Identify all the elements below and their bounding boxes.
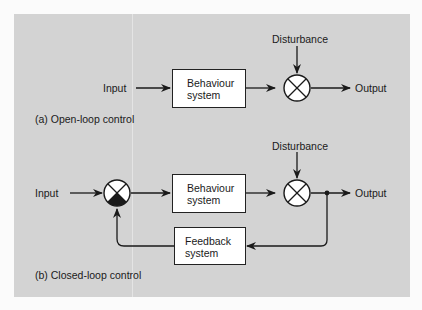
open-output-label: Output (355, 82, 387, 94)
closed-loop-caption: (b) Closed-loop control (35, 269, 141, 281)
feedback-system-box: Feedback system (174, 227, 246, 265)
open-loop-caption: (a) Open-loop control (35, 113, 134, 125)
open-behaviour-system-box: Behaviour system (172, 69, 246, 108)
open-disturbance-label: Disturbance (272, 33, 328, 45)
open-input-label: Input (103, 82, 126, 94)
closed-summing-junction (284, 180, 310, 206)
box-line1: Behaviour (187, 182, 245, 194)
closed-behaviour-system-box: Behaviour system (172, 174, 246, 213)
box-line2: system (187, 194, 245, 206)
closed-disturbance-label: Disturbance (272, 140, 328, 152)
box-line2: system (187, 89, 245, 101)
box-line2: system (185, 247, 245, 259)
box-line1: Feedback (185, 235, 245, 247)
comparator-junction (104, 180, 130, 206)
closed-input-label: Input (35, 187, 58, 199)
box-line1: Behaviour (187, 77, 245, 89)
closed-output-label: Output (355, 187, 387, 199)
open-summing-junction (284, 75, 310, 101)
output-branch-dot (325, 191, 330, 196)
feedback-to-comparator-path (117, 209, 176, 246)
